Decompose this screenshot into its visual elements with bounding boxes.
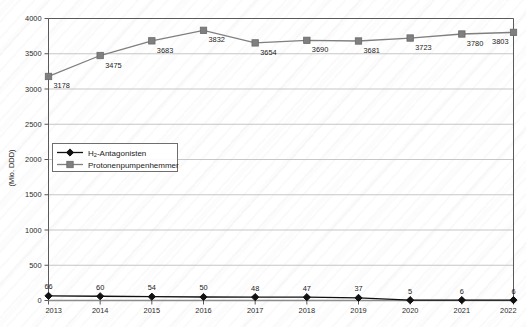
data-label: 37 (354, 284, 362, 293)
data-label: 3475 (105, 61, 121, 70)
data-label: 48 (251, 284, 259, 293)
y-axis: 05001000150020002500300035004000 (25, 14, 48, 305)
series-line (49, 296, 514, 300)
data-label: 50 (199, 283, 207, 292)
y-tick-label: 1500 (25, 190, 41, 199)
y-tick-label: 500 (29, 261, 41, 270)
data-label: 3803 (492, 37, 508, 46)
data-point-square (45, 73, 51, 79)
x-tick-label: 2013 (46, 306, 62, 315)
y-tick-label: 3500 (25, 49, 41, 58)
data-label: 6 (460, 287, 464, 296)
data-point-square (304, 37, 310, 43)
y-tick-label: 0 (37, 296, 41, 305)
chart-legend: H2-AntagonistenProtonenpumpenhemmer (53, 144, 180, 172)
data-label: 3832 (209, 35, 225, 44)
x-tick-label: 2021 (454, 306, 470, 315)
data-point-square (200, 27, 206, 33)
data-label: 3780 (467, 39, 483, 48)
data-label: 3681 (364, 46, 380, 55)
data-label: 60 (96, 283, 104, 292)
x-tick-label: 2022 (500, 306, 516, 315)
data-point-diamond (252, 294, 259, 301)
y-tick-label: 2500 (25, 120, 41, 129)
data-point-square (149, 38, 155, 44)
x-axis: 2013201420152016201720182019202020212022 (46, 301, 517, 315)
legend-item-label: Protonenpumpenhemmer (88, 161, 179, 170)
gridlines-group (49, 19, 514, 266)
x-tick-label: 2014 (92, 306, 108, 315)
data-point-square (97, 52, 103, 58)
data-point-diamond (407, 297, 414, 304)
x-tick-label: 2015 (144, 306, 160, 315)
data-point-diamond (200, 293, 207, 300)
data-label: 3178 (54, 81, 70, 90)
line-chart: 05001000150020002500300035004000 (Mio. D… (0, 0, 526, 327)
data-label: 54 (148, 283, 156, 292)
chart-container: 05001000150020002500300035004000 (Mio. D… (0, 0, 526, 327)
y-tick-label: 4000 (25, 14, 41, 23)
x-tick-label: 2016 (195, 306, 211, 315)
data-label: 66 (44, 282, 52, 291)
x-tick-label: 2020 (402, 306, 418, 315)
data-point-diamond (45, 292, 52, 299)
data-point-diamond (510, 296, 517, 303)
data-point-diamond (458, 296, 465, 303)
data-label: 3723 (415, 43, 431, 52)
y-axis-title: (Mio. DDD) (7, 150, 16, 187)
x-tick-label: 2018 (299, 306, 315, 315)
data-label: 3683 (157, 46, 173, 55)
y-tick-label: 1000 (25, 226, 41, 235)
x-tick-label: 2019 (350, 306, 366, 315)
data-label: 3690 (312, 45, 328, 54)
data-label: 47 (303, 284, 311, 293)
data-point-diamond (303, 294, 310, 301)
data-point-square (407, 35, 413, 41)
x-tick-label: 2017 (247, 306, 263, 315)
y-tick-label: 3000 (25, 85, 41, 94)
legend-item-label: H2-Antagonisten (88, 149, 146, 159)
data-label: 5 (408, 287, 412, 296)
data-label: 6 (511, 287, 515, 296)
data-point-diamond (148, 293, 155, 300)
data-point-square (459, 31, 465, 37)
data-point-square (510, 29, 516, 35)
y-tick-label: 2000 (25, 155, 41, 164)
data-point-square (355, 38, 361, 44)
data-point-square (252, 40, 258, 46)
data-point-diamond (97, 293, 104, 300)
square-icon (67, 161, 73, 167)
data-label: 3654 (260, 48, 276, 57)
